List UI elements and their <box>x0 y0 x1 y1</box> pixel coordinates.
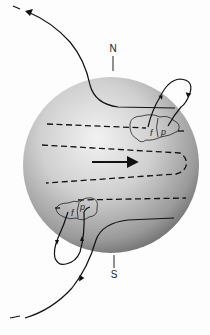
north-leading-spot-label: p <box>160 127 166 137</box>
south-leading-spot-label: p <box>79 202 85 212</box>
diagram-canvas: N S f p f p <box>0 0 210 335</box>
sun-sphere <box>23 77 199 253</box>
sun-magnetic-field-diagram: N S f p f p <box>0 0 210 335</box>
north-open-field-arrow-icon <box>25 9 33 16</box>
south-open-field-dash <box>10 316 20 318</box>
north-open-field-dash <box>13 6 20 9</box>
north-pole-label: N <box>109 43 116 54</box>
south-pole-label: S <box>111 269 118 280</box>
